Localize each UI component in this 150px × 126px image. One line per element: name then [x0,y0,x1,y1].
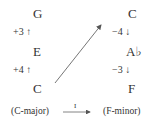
transform-label: I [74,103,76,110]
right-note-a-flat: A♭ [126,45,142,58]
left-interval-plus3: +3 ↑ [13,27,31,37]
left-note-g: G [33,7,42,20]
left-note-e: E [33,45,41,58]
right-interval-minus3: −3 ↓ [112,65,130,75]
target-key-label: (F-minor) [103,107,140,117]
left-note-c: C [33,82,42,95]
right-note-f: F [128,82,135,95]
left-interval-plus4: +4 ↑ [13,65,31,75]
diagonal-mapping-arrow [55,25,101,83]
source-key-label: (C-major) [11,107,49,117]
right-note-c: C [128,7,137,20]
right-interval-minus4: −4 ↓ [112,27,130,37]
